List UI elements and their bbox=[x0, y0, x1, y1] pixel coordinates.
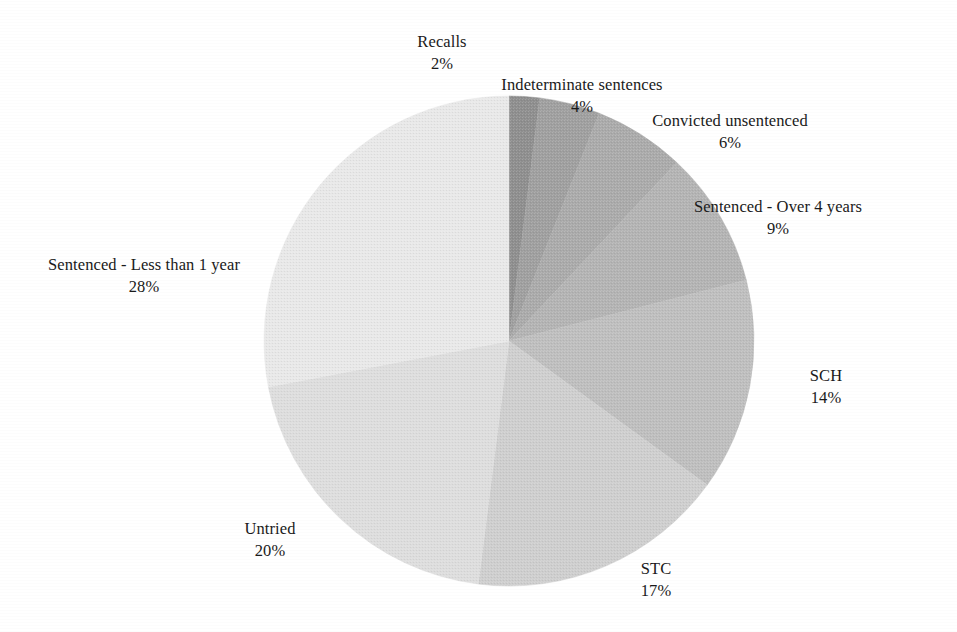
pie-label-sch-name: SCH bbox=[766, 365, 886, 387]
pie-label-convicted-unsentenced: Convicted unsentenced 6% bbox=[580, 110, 880, 154]
pie-label-sentenced-over-4-years-value: 9% bbox=[628, 218, 928, 240]
pie-label-sch: SCH 14% bbox=[766, 365, 886, 409]
pie-label-convicted-unsentenced-name: Convicted unsentenced bbox=[580, 110, 880, 132]
pie-label-sentenced-over-4-years: Sentenced - Over 4 years 9% bbox=[628, 196, 928, 240]
pie-label-indeterminate-sentences-name: Indeterminate sentences bbox=[452, 74, 712, 96]
pie-label-recalls-name: Recalls bbox=[352, 31, 532, 53]
pie-label-untried-value: 20% bbox=[190, 540, 350, 562]
pie-label-stc: STC 17% bbox=[596, 558, 716, 602]
pie-label-recalls: Recalls 2% bbox=[352, 31, 532, 75]
pie-label-untried-name: Untried bbox=[190, 518, 350, 540]
pie-label-sentenced-less-than-1-year-name: Sentenced - Less than 1 year bbox=[14, 254, 274, 276]
pie-label-untried: Untried 20% bbox=[190, 518, 350, 562]
pie-label-sentenced-less-than-1-year: Sentenced - Less than 1 year 28% bbox=[14, 254, 274, 298]
pie-label-stc-value: 17% bbox=[596, 580, 716, 602]
pie-label-recalls-value: 2% bbox=[352, 53, 532, 75]
pie-chart-figure: Recalls 2% Indeterminate sentences 4% Co… bbox=[0, 0, 957, 632]
pie-label-convicted-unsentenced-value: 6% bbox=[580, 132, 880, 154]
pie-label-stc-name: STC bbox=[596, 558, 716, 580]
pie-label-sentenced-less-than-1-year-value: 28% bbox=[14, 276, 274, 298]
pie-label-sch-value: 14% bbox=[766, 387, 886, 409]
pie-label-sentenced-over-4-years-name: Sentenced - Over 4 years bbox=[628, 196, 928, 218]
